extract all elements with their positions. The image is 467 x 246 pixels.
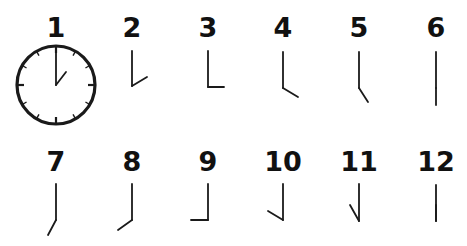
clock-tick	[73, 114, 75, 117]
clock-step-2: 2	[123, 12, 147, 86]
hour-hand-icon	[118, 220, 132, 230]
hour-hand-icon	[268, 211, 283, 220]
clock-step-5: 5	[350, 12, 369, 102]
step-number-label: 8	[123, 146, 142, 177]
clock-step-1: 1	[47, 12, 66, 85]
clock-step-3: 3	[199, 12, 224, 87]
clock-step-6: 6	[427, 12, 446, 105]
step-number-label: 6	[427, 12, 446, 43]
step-number-label: 12	[417, 146, 455, 177]
clock-step-12: 12	[417, 146, 455, 221]
step-number-label: 9	[199, 146, 218, 177]
step-number-label: 4	[274, 12, 293, 43]
clock-step-10: 10	[264, 146, 302, 220]
hour-hand-icon	[132, 77, 147, 86]
clock-step-11: 11	[340, 146, 378, 221]
clock-sequence-diagram: 123456789101112	[0, 0, 467, 246]
step-number-label: 7	[47, 146, 66, 177]
step-number-label: 10	[264, 146, 302, 177]
step-number-label: 11	[340, 146, 378, 177]
hour-hand-icon	[350, 205, 359, 221]
clock-tick	[85, 66, 88, 68]
clock-tick	[73, 52, 75, 55]
step-number-label: 1	[47, 12, 66, 43]
hour-hand-icon	[283, 88, 298, 97]
clock-tick	[37, 52, 39, 55]
step-number-label: 5	[350, 12, 369, 43]
clock-step-4: 4	[274, 12, 298, 97]
hour-hand-icon	[359, 88, 368, 102]
step-number-label: 2	[123, 12, 142, 43]
step-number-label: 3	[199, 12, 218, 43]
clock-tick	[37, 114, 39, 117]
clock-step-7: 7	[47, 146, 66, 235]
clock-step-8: 8	[118, 146, 141, 230]
clock-step-9: 9	[191, 146, 217, 220]
hour-hand-icon	[56, 72, 66, 85]
clock-tick	[23, 102, 26, 104]
hour-hand-icon	[48, 220, 56, 235]
clock-tick	[85, 102, 88, 104]
clock-tick	[23, 66, 26, 68]
